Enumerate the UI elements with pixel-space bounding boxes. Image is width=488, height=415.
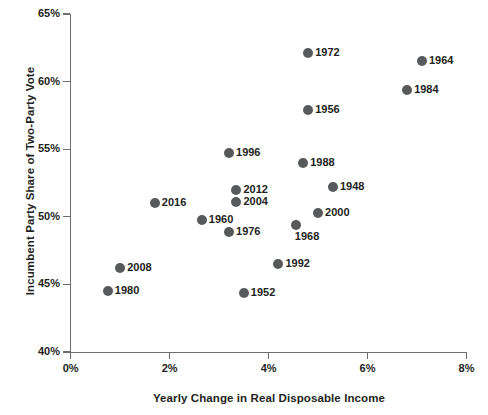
- y-axis-tick-label: 40%: [16, 345, 60, 357]
- x-axis-tick: [367, 352, 368, 359]
- data-point-label: 2016: [162, 196, 186, 208]
- data-point[interactable]: [291, 220, 301, 230]
- y-axis-tick-label: 65%: [16, 7, 60, 19]
- x-axis-tick-label: 2%: [150, 362, 190, 374]
- data-point[interactable]: [298, 158, 308, 168]
- x-axis-tick-label: 6%: [348, 362, 388, 374]
- x-axis-tick-label: 8%: [447, 362, 487, 374]
- data-point-label: 1980: [115, 284, 139, 296]
- data-point[interactable]: [313, 208, 323, 218]
- y-axis-tick: [63, 351, 70, 352]
- x-axis-title: Yearly Change in Real Disposable Income: [71, 392, 467, 404]
- data-point-label: 2008: [127, 261, 151, 273]
- data-point-label: 1956: [315, 103, 339, 115]
- data-point[interactable]: [231, 197, 241, 207]
- data-point[interactable]: [273, 259, 283, 269]
- x-axis-tick-label: 4%: [249, 362, 289, 374]
- data-point[interactable]: [224, 227, 234, 237]
- data-point[interactable]: [417, 56, 427, 66]
- y-axis-tick: [63, 13, 70, 14]
- data-point-label: 1988: [310, 156, 334, 168]
- data-point-label: 2004: [243, 195, 267, 207]
- data-point-label: 1952: [251, 286, 275, 298]
- data-point[interactable]: [303, 105, 313, 115]
- data-point-label: 1996: [236, 146, 260, 158]
- y-axis-tick-label: 50%: [16, 210, 60, 222]
- data-point[interactable]: [231, 185, 241, 195]
- data-point[interactable]: [103, 286, 113, 296]
- x-axis-tick-label: 0%: [51, 362, 91, 374]
- data-point[interactable]: [224, 148, 234, 158]
- y-axis-tick: [63, 284, 70, 285]
- data-point[interactable]: [402, 85, 412, 95]
- data-point-label: 1968: [295, 230, 319, 242]
- y-axis-tick-label: 45%: [16, 277, 60, 289]
- data-point-label: 1984: [414, 83, 438, 95]
- data-point-label: 1976: [236, 225, 260, 237]
- data-point[interactable]: [328, 182, 338, 192]
- data-point-label: 1972: [315, 46, 339, 58]
- data-point-label: 1948: [340, 180, 364, 192]
- data-point-label: 1992: [285, 257, 309, 269]
- x-axis-tick: [70, 352, 71, 359]
- data-point[interactable]: [197, 215, 207, 225]
- data-point[interactable]: [303, 48, 313, 58]
- x-axis-tick: [268, 352, 269, 359]
- x-axis-tick: [466, 352, 467, 359]
- data-point-label: 2000: [325, 206, 349, 218]
- data-point-label: 2012: [243, 183, 267, 195]
- y-axis-title: Incumbent Party Share of Two-Party Vote: [24, 56, 36, 306]
- y-axis-tick: [63, 216, 70, 217]
- x-axis-tick: [169, 352, 170, 359]
- data-point[interactable]: [239, 288, 249, 298]
- y-axis-tick: [63, 81, 70, 82]
- data-point[interactable]: [150, 198, 160, 208]
- data-point-label: 1964: [429, 54, 453, 66]
- data-point[interactable]: [115, 263, 125, 273]
- y-axis-tick-label: 60%: [16, 75, 60, 87]
- y-axis-tick-label: 55%: [16, 142, 60, 154]
- data-point-label: 1960: [209, 213, 233, 225]
- y-axis-line: [70, 14, 71, 353]
- y-axis-tick: [63, 149, 70, 150]
- scatter-chart: Incumbent Party Share of Two-Party Vote …: [0, 0, 488, 415]
